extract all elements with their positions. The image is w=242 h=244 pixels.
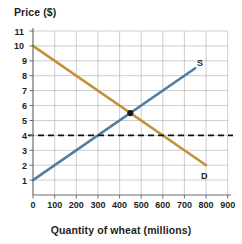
ytick-label-3: 3 (11, 146, 27, 156)
xtick-label-600: 600 (153, 200, 173, 210)
ytick-label-5: 5 (11, 116, 27, 126)
ytick-label-8: 8 (11, 71, 27, 81)
xtick-label-0: 0 (25, 200, 41, 210)
xtick-label-500: 500 (131, 200, 151, 210)
ytick-label-11: 11 (8, 27, 24, 37)
ytick-label-4: 4 (11, 131, 27, 141)
ytick-label-7: 7 (11, 86, 27, 96)
chart-screenshot: Price ($) (0, 0, 242, 244)
xtick-label-300: 300 (88, 200, 108, 210)
demand-curve-label: D (201, 171, 208, 181)
ytick-label-10: 10 (8, 41, 24, 51)
ytick-label-1: 1 (11, 176, 27, 186)
supply-curve (33, 68, 195, 180)
xtick-label-100: 100 (45, 200, 65, 210)
xtick-label-700: 700 (174, 200, 194, 210)
xtick-label-800: 800 (196, 200, 216, 210)
ytick-label-2: 2 (11, 161, 27, 171)
ytick-label-6: 6 (11, 101, 27, 111)
xtick-label-200: 200 (66, 200, 86, 210)
supply-curve-label: S (197, 58, 203, 68)
xtick-label-900: 900 (218, 200, 238, 210)
x-axis-title: Quantity of wheat (millions) (0, 224, 242, 236)
equilibrium-point (127, 110, 133, 116)
xtick-label-400: 400 (110, 200, 130, 210)
ytick-label-9: 9 (11, 56, 27, 66)
horizontal-gridlines (33, 31, 228, 180)
